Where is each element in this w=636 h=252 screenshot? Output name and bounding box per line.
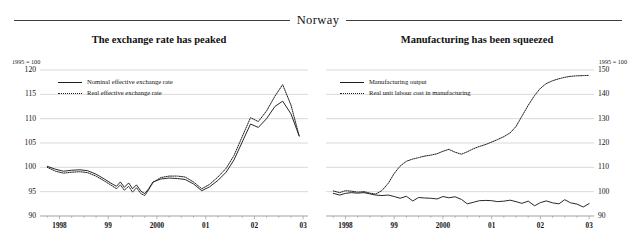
legend-label-nominal: Nominal effective exchange rate bbox=[87, 78, 173, 85]
country-label: Norway bbox=[297, 13, 340, 28]
legend-swatch-solid-icon bbox=[340, 79, 364, 85]
series-line-1 bbox=[333, 193, 589, 207]
unit-note-right: 1995 = 100 bbox=[599, 58, 627, 65]
y-axis-tick-label: 140 bbox=[598, 91, 609, 99]
legend-swatch-dotted-icon bbox=[58, 90, 82, 96]
figure-page: Norway The exchange rate has peaked 1995… bbox=[0, 0, 636, 252]
y-axis-tick-label: 150 bbox=[598, 66, 609, 74]
legend-manufacturing: Manufacturing output Real unit labour co… bbox=[340, 77, 471, 97]
unit-note-left: 1995 = 100 bbox=[12, 58, 40, 65]
legend-label-rulc: Real unit labour cost in manufacturing bbox=[369, 89, 471, 96]
y-axis-tick-label: 90 bbox=[0, 212, 36, 220]
banner-rule-left bbox=[14, 20, 290, 21]
y-axis-tick-label: 120 bbox=[598, 139, 609, 147]
legend-item-nominal: Nominal effective exchange rate bbox=[58, 77, 173, 86]
x-axis-tick-label: 02 bbox=[251, 222, 258, 230]
legend-swatch-solid-icon bbox=[58, 79, 82, 85]
legend-item-rulc: Real unit labour cost in manufacturing bbox=[340, 88, 471, 97]
series-line-1 bbox=[47, 101, 299, 193]
legend-item-real: Real effective exchange rate bbox=[58, 88, 173, 97]
legend-swatch-dotted-icon bbox=[340, 90, 364, 96]
legend-label-real: Real effective exchange rate bbox=[87, 89, 162, 96]
x-axis-tick-label: 02 bbox=[537, 222, 544, 230]
x-axis-tick-label: 01 bbox=[488, 222, 495, 230]
legend-item-output: Manufacturing output bbox=[340, 77, 471, 86]
y-axis-tick-label: 110 bbox=[0, 115, 36, 123]
y-axis-tick-label: 100 bbox=[598, 188, 609, 196]
legend-exchange-rate: Nominal effective exchange rate Real eff… bbox=[58, 77, 173, 97]
chart-panel-manufacturing: Manufacturing has been squeezed 1995 = 1… bbox=[318, 30, 636, 245]
y-axis-tick-label: 90 bbox=[598, 212, 606, 220]
y-axis-tick-label: 115 bbox=[0, 91, 36, 99]
x-axis-tick-label: 01 bbox=[202, 222, 209, 230]
series-line-2 bbox=[47, 85, 299, 196]
country-banner: Norway bbox=[14, 12, 622, 28]
x-axis-tick-label: 99 bbox=[391, 222, 398, 230]
x-axis-tick-label: 03 bbox=[586, 222, 593, 230]
x-axis-tick-label: 2000 bbox=[150, 222, 164, 230]
y-axis-tick-label: 100 bbox=[0, 164, 36, 172]
y-axis-tick-label: 105 bbox=[0, 139, 36, 147]
x-axis-tick-label: 99 bbox=[105, 222, 112, 230]
x-axis-tick-label: 1998 bbox=[52, 222, 66, 230]
chart-panel-exchange-rate: The exchange rate has peaked 1995 = 100 … bbox=[0, 30, 318, 245]
x-axis-tick-label: 1998 bbox=[338, 222, 352, 230]
y-axis-tick-label: 130 bbox=[598, 115, 609, 123]
x-axis-tick-label: 2000 bbox=[436, 222, 450, 230]
legend-label-output: Manufacturing output bbox=[369, 78, 427, 85]
y-axis-tick-label: 95 bbox=[0, 188, 36, 196]
chart-title-manufacturing: Manufacturing has been squeezed bbox=[318, 34, 636, 45]
x-axis-tick-label: 03 bbox=[300, 222, 307, 230]
y-axis-tick-label: 120 bbox=[0, 66, 36, 74]
banner-rule-right bbox=[346, 20, 622, 21]
y-axis-tick-label: 110 bbox=[598, 164, 609, 172]
chart-title-exchange-rate: The exchange rate has peaked bbox=[0, 34, 318, 45]
